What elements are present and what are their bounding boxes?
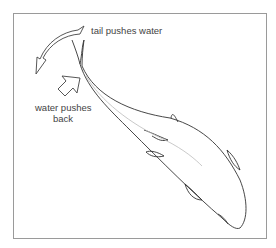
tail-pushes-label: tail pushes water [91,25,162,36]
tail-push-arrow-icon [36,26,84,74]
water-pushes-line1: water pushes [35,102,91,113]
water-pushes-label: water pushes back [35,102,91,124]
fish-outline [72,40,246,229]
water-pushes-line2: back [35,113,91,124]
lateral-line [86,76,202,166]
fish-diagram [0,0,276,248]
water-push-arrow-icon [58,76,80,96]
